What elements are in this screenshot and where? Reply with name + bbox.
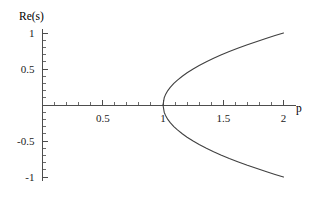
x-axis-tick-label: 0.5 — [96, 112, 110, 124]
parabola-plot: 0.511.5210.5-0.5-1 — [0, 0, 312, 201]
y-axis-tick-label: -0.5 — [17, 135, 35, 147]
y-axis-tick-label: 0.5 — [21, 63, 35, 75]
y-axis-title-prefix: Re( — [19, 10, 36, 22]
x-axis-tick-label: 2 — [281, 112, 287, 124]
y-axis-tick-label: 1 — [29, 27, 35, 39]
y-axis-tick-label: -1 — [25, 171, 34, 183]
x-axis-tick-label: 1.5 — [216, 112, 230, 124]
chart-figure: 0.511.5210.5-0.5-1 Re(s) p — [0, 0, 312, 201]
curve-upper-branch — [163, 33, 284, 105]
y-axis-title: Re(s) — [19, 6, 44, 24]
x-axis-title-variable: p — [296, 102, 302, 114]
y-axis-title-suffix: ) — [40, 10, 44, 22]
x-axis-title: p — [296, 98, 302, 116]
